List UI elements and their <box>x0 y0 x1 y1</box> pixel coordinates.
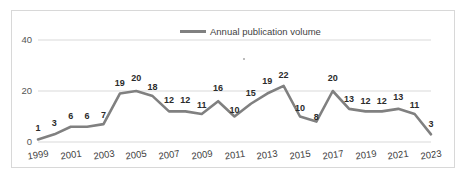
data-point-label: 7 <box>96 111 112 120</box>
legend-line-swatch <box>180 30 206 33</box>
data-point-label: 11 <box>407 101 423 110</box>
data-point-label: 13 <box>341 95 357 104</box>
data-point-label: 6 <box>79 112 95 121</box>
data-point-label: 8 <box>308 113 324 122</box>
data-point-label: 16 <box>210 84 226 93</box>
data-point-label: 12 <box>374 97 390 106</box>
data-point-label: 19 <box>112 79 128 88</box>
data-point-label: 18 <box>145 83 161 92</box>
data-point-label: 1 <box>30 124 46 133</box>
data-point-label: 6 <box>63 112 79 121</box>
y-axis-tick-label: 20 <box>14 86 32 96</box>
data-point-label: 10 <box>227 106 243 115</box>
data-point-label: 11 <box>194 101 210 110</box>
y-axis-tick-label: 0 <box>14 137 32 147</box>
data-point-label: 12 <box>177 96 193 105</box>
data-point-label: 3 <box>46 119 62 128</box>
data-point-label: 20 <box>325 74 341 83</box>
chart-legend: Annual publication volume <box>180 26 321 37</box>
data-point-label: 15 <box>243 89 259 98</box>
data-point-label: 22 <box>276 71 292 80</box>
stray-mark <box>243 58 245 60</box>
data-point-label: 19 <box>259 77 275 86</box>
data-point-label: 10 <box>292 104 308 113</box>
legend-label: Annual publication volume <box>210 26 321 37</box>
data-point-label: 20 <box>128 74 144 83</box>
data-point-label: 12 <box>358 97 374 106</box>
y-axis-tick-label: 40 <box>14 35 32 45</box>
data-point-label: 12 <box>161 96 177 105</box>
data-point-label: 3 <box>423 120 439 129</box>
data-point-label: 13 <box>390 93 406 102</box>
